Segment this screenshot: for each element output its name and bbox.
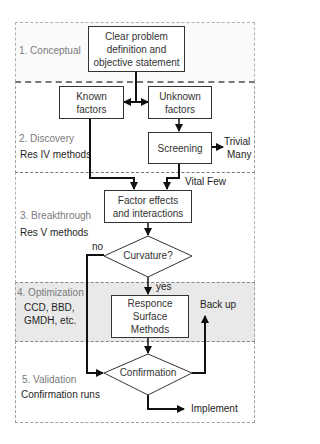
implement-label: Implement [191, 403, 238, 415]
confirmation-label: Confirmation [104, 367, 192, 378]
response-surface-box: Responce Surface Methods [111, 295, 189, 338]
trivial-many-label-2: Many [227, 149, 251, 161]
unknown-factors-box: Unknown factors [148, 86, 212, 119]
problem-line-3: objective statement [93, 56, 179, 69]
problem-line-2: definition and [107, 43, 167, 56]
known-line-1: Known [76, 90, 107, 103]
problem-definition-box: Clear problem definition and objective s… [88, 26, 185, 72]
curvature-label: Curvature? [104, 250, 192, 261]
factor-effects-box: Factor effects and interactions [104, 190, 192, 223]
unknown-line-1: Unknown [159, 90, 201, 103]
known-factors-box: Known factors [59, 86, 124, 119]
screening-label: Screening [157, 142, 202, 155]
known-line-2: factors [76, 103, 106, 116]
factor-effects-line-1: Factor effects [118, 194, 178, 207]
rsm-line-1: Responce [127, 297, 172, 310]
back-up-label: Back up [200, 299, 236, 311]
problem-line-1: Clear problem [105, 30, 168, 43]
unknown-line-2: factors [165, 103, 195, 116]
trivial-many-label-1: Trivial [224, 136, 250, 148]
factor-effects-line-2: and interactions [113, 207, 184, 220]
vital-few-label: Vital Few [185, 176, 226, 188]
screening-box: Screening [148, 132, 212, 164]
yes-label: yes [156, 281, 172, 293]
rsm-line-2: Surface [133, 310, 167, 323]
rsm-line-3: Methods [131, 323, 169, 336]
no-label: no [92, 241, 103, 253]
